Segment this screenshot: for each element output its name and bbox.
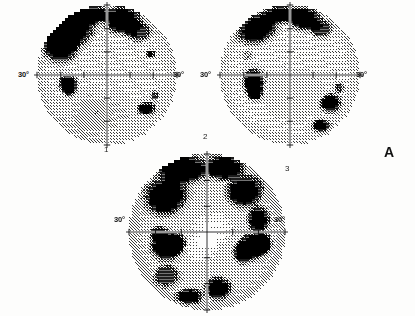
- visual-field-plot-3: [216, 1, 364, 149]
- grayscale-field: [33, 1, 181, 149]
- grayscale-field: [125, 150, 289, 314]
- plot-3-right-axis-label: 30°: [356, 70, 367, 79]
- panel-label: A: [384, 144, 394, 160]
- grayscale-field: [216, 1, 364, 149]
- plot-1-number-label: 1: [104, 145, 108, 154]
- plot-2-right-axis-label: 30°: [274, 215, 285, 224]
- plot-2-number-label: 2: [203, 132, 207, 141]
- plot-3-left-axis-label: 30°: [200, 70, 211, 79]
- visual-field-plot-1: [33, 1, 181, 149]
- figure-canvas: 30° 30° 1 30° 30° 3 30° 30° 2 A: [0, 0, 415, 316]
- plot-1-left-axis-label: 30°: [18, 70, 29, 79]
- plot-2-left-axis-label: 30°: [114, 215, 125, 224]
- visual-field-plot-2: [125, 150, 289, 314]
- plot-1-right-axis-label: 30°: [173, 70, 184, 79]
